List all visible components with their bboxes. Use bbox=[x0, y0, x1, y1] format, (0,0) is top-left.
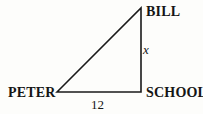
triangle-outline bbox=[57, 8, 141, 92]
vertex-label-bill: BILL bbox=[146, 5, 180, 19]
triangle-diagram: BILL PETER SCHOOL x 12 bbox=[0, 0, 203, 114]
vertex-label-school: SCHOOL bbox=[146, 86, 203, 100]
side-label-x: x bbox=[143, 43, 149, 57]
side-label-base: 12 bbox=[91, 98, 104, 112]
vertex-label-peter: PETER bbox=[8, 86, 56, 100]
